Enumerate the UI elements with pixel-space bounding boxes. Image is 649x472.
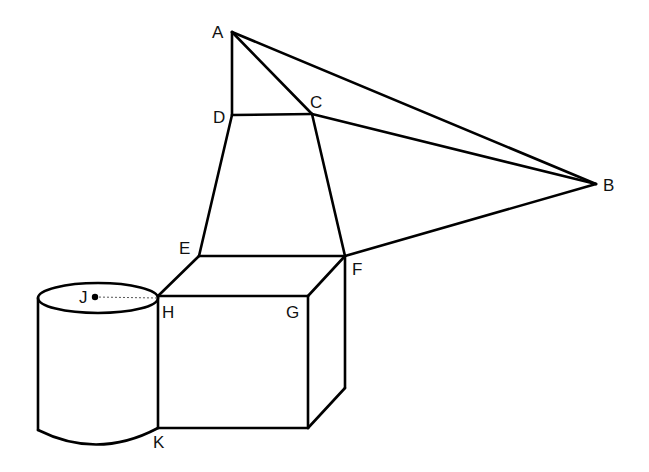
edge-AC: [232, 32, 312, 114]
label-B: B: [603, 176, 614, 195]
point-labels: A B C D E F G H J K: [79, 23, 614, 452]
label-F: F: [352, 260, 362, 279]
label-A: A: [212, 23, 224, 42]
label-K: K: [153, 433, 165, 452]
radius-JH: [95, 297, 157, 298]
edge-bottom-diagonal: [308, 388, 345, 428]
label-C: C: [310, 93, 322, 112]
label-G: G: [286, 303, 299, 322]
geometry-diagram: A B C D E F G H J K: [0, 0, 649, 472]
center-point-J: [92, 294, 98, 300]
edge-EH: [158, 256, 199, 296]
label-D: D: [213, 108, 225, 127]
cube-edges: [158, 256, 345, 428]
label-H: H: [162, 303, 174, 322]
edge-CF: [312, 114, 345, 256]
cylinder-bottom-arc: [38, 428, 158, 445]
edge-DC: [232, 114, 312, 115]
label-J: J: [79, 288, 88, 307]
edge-AB: [232, 32, 596, 184]
edge-FG: [308, 256, 345, 296]
edge-FB: [345, 184, 596, 256]
cylinder: [38, 283, 158, 445]
pyramid-edges: [199, 32, 596, 256]
label-E: E: [179, 239, 190, 258]
edge-DE: [199, 115, 232, 256]
